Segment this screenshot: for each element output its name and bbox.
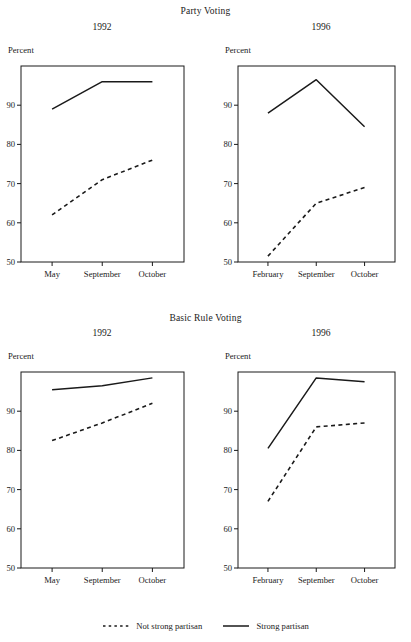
y-tick-label: 90: [6, 100, 15, 110]
y-tick-label: 50: [6, 257, 15, 267]
panel-year-bottom-left: 1992: [62, 328, 142, 338]
plot-frame: [238, 372, 395, 568]
y-axis-label-top-left: Percent: [8, 45, 34, 55]
x-tick-label: September: [298, 575, 335, 585]
legend-swatch-solid: [222, 622, 250, 630]
figure-canvas: Party Voting 1992 Percent 5060708090MayS…: [0, 0, 411, 642]
y-tick-label: 60: [6, 524, 15, 534]
chart-basic-rule-1992: 5060708090MaySeptemberOctober: [0, 366, 200, 591]
series-line-solid: [268, 378, 365, 449]
x-tick-label: February: [252, 575, 284, 585]
series-line-dashed: [52, 403, 152, 440]
y-tick-label: 90: [223, 406, 232, 416]
chart-party-voting-1992: 5060708090MaySeptemberOctober: [0, 60, 200, 285]
y-tick-label: 80: [6, 139, 15, 149]
x-tick-label: October: [351, 269, 379, 279]
y-tick-label: 50: [223, 563, 232, 573]
chart-legend: Not strong partisan Strong partisan: [0, 620, 411, 631]
legend-label-strong-partisan: Strong partisan: [257, 621, 309, 631]
section-title-basic-rule: Basic Rule Voting: [0, 313, 411, 323]
x-tick-label: October: [139, 269, 167, 279]
series-line-dashed: [268, 188, 365, 257]
x-tick-label: October: [139, 575, 167, 585]
plot-frame: [21, 66, 184, 262]
x-tick-label: May: [44, 269, 60, 279]
x-tick-label: February: [252, 269, 284, 279]
series-line-solid: [268, 80, 365, 127]
x-tick-label: September: [298, 269, 335, 279]
y-tick-label: 50: [6, 563, 15, 573]
y-tick-label: 80: [223, 445, 232, 455]
x-tick-label: September: [84, 269, 121, 279]
y-tick-label: 70: [223, 485, 232, 495]
x-tick-label: September: [84, 575, 121, 585]
series-line-solid: [52, 82, 152, 109]
y-tick-label: 70: [6, 485, 15, 495]
plot-frame: [21, 372, 184, 568]
y-axis-label-top-right: Percent: [225, 45, 251, 55]
y-tick-label: 80: [6, 445, 15, 455]
series-line-solid: [52, 378, 152, 390]
y-axis-label-bottom-right: Percent: [225, 351, 251, 361]
legend-swatch-dashed: [102, 622, 130, 630]
y-axis-label-bottom-left: Percent: [8, 351, 34, 361]
chart-party-voting-1996: 5060708090FebruarySeptemberOctober: [217, 60, 411, 285]
y-tick-label: 70: [223, 179, 232, 189]
y-tick-label: 90: [223, 100, 232, 110]
plot-frame: [238, 66, 395, 262]
series-line-dashed: [52, 160, 152, 215]
legend-item-strong-partisan: Strong partisan: [222, 620, 308, 631]
y-tick-label: 70: [6, 179, 15, 189]
y-tick-label: 90: [6, 406, 15, 416]
legend-item-not-strong-partisan: Not strong partisan: [102, 620, 202, 631]
legend-label-not-strong-partisan: Not strong partisan: [136, 621, 202, 631]
x-tick-label: May: [44, 575, 60, 585]
series-line-dashed: [268, 423, 365, 501]
y-tick-label: 60: [223, 218, 232, 228]
y-tick-label: 80: [223, 139, 232, 149]
panel-year-top-left: 1992: [62, 22, 142, 32]
section-title-party-voting: Party Voting: [0, 6, 411, 16]
panel-year-top-right: 1996: [281, 22, 361, 32]
panel-year-bottom-right: 1996: [281, 328, 361, 338]
y-tick-label: 60: [223, 524, 232, 534]
y-tick-label: 60: [6, 218, 15, 228]
chart-basic-rule-1996: 5060708090FebruarySeptemberOctober: [217, 366, 411, 591]
y-tick-label: 50: [223, 257, 232, 267]
x-tick-label: October: [351, 575, 379, 585]
